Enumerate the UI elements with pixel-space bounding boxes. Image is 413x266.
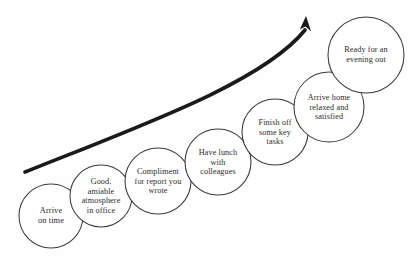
node-circle-good-atmosphere [70,165,132,227]
diagram-svg [0,0,413,266]
diagram-canvas: Arrive on timeGood, amiable atmosphere i… [0,0,413,266]
node-circle-ready-for-evening [328,17,404,93]
node-circle-lunch-with-colleagues [185,129,251,195]
node-circles-layer [19,17,404,248]
node-circle-compliment-for-report [125,148,191,214]
